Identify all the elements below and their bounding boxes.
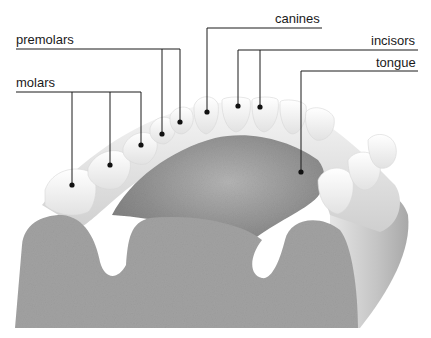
jaw-cross-section (15, 215, 358, 328)
label-molars: molars (16, 76, 55, 89)
label-canines: canines (275, 12, 320, 25)
jaw-illustration (0, 0, 431, 338)
label-incisors: incisors (371, 34, 415, 47)
label-premolars: premolars (16, 33, 74, 46)
label-tongue: tongue (376, 56, 416, 69)
